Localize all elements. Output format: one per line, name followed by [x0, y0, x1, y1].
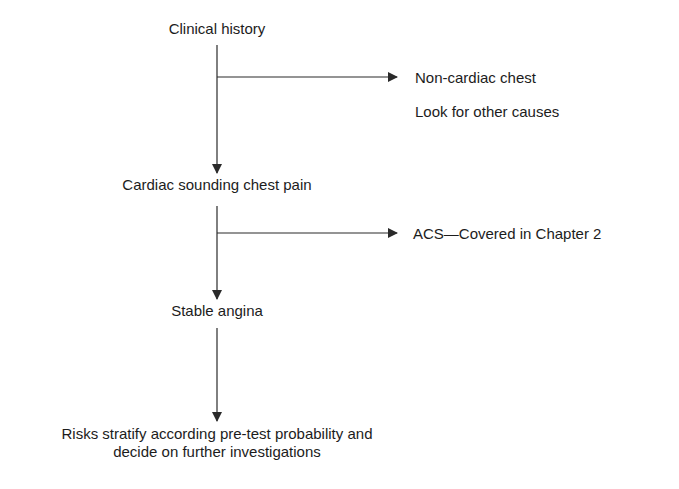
flowchart: Clinical history Non-cardiac chest Look …	[0, 0, 679, 489]
node-stable-angina: Stable angina	[171, 302, 263, 320]
node-cardiac-sounding-chest-pain: Cardiac sounding chest pain	[122, 176, 311, 194]
risk-stratify-line-2: decide on further investigations	[62, 443, 373, 461]
risk-stratify-line-1: Risks stratify according pre-test probab…	[62, 425, 373, 443]
node-look-for-other-causes: Look for other causes	[415, 103, 559, 121]
node-acs: ACS—Covered in Chapter 2	[413, 225, 601, 243]
connector-lines	[0, 0, 679, 489]
node-non-cardiac-chest: Non-cardiac chest	[415, 69, 536, 87]
node-risk-stratify: Risks stratify according pre-test probab…	[62, 425, 373, 461]
node-clinical-history: Clinical history	[169, 20, 266, 38]
